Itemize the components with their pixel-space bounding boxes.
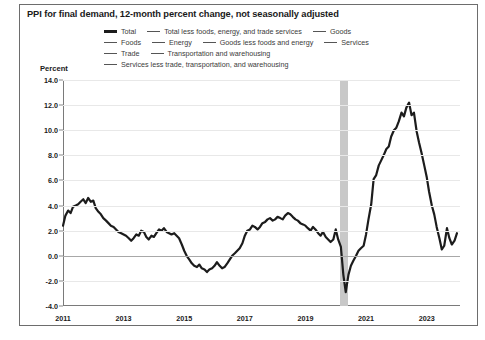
y-axis-tick-mark [59,306,63,307]
y-gridline [63,80,460,81]
x-axis-tick-label: 2017 [237,314,253,323]
y-axis-label: Percent [40,64,68,73]
x-axis-tick-label: 2021 [358,314,374,323]
chart-figure: PPI for final demand, 12-month percent c… [0,0,485,340]
y-axis-tick-mark [59,205,63,206]
legend-row: FoodsEnergyGoods less foods and energySe… [104,37,474,48]
legend-swatch-icon [147,31,160,32]
legend-item-label: Foods [121,38,141,47]
page-title: PPI for final demand, 12-month percent c… [27,9,339,19]
y-gridline [63,105,460,106]
legend-item-label: Total less foods, energy, and trade serv… [164,27,302,36]
y-gridline [63,281,460,282]
y-gridline [63,180,460,181]
y-axis-tick-label: 8.0 [48,151,58,160]
legend-item-label: Goods [330,27,351,36]
legend-item-label: Goods less foods and energy [220,38,314,47]
x-axis-tick-label: 2013 [116,314,132,323]
x-axis-tick-label: 2011 [55,314,71,323]
legend-item-label: Trade [121,49,140,58]
legend-item-label: Transportation and warehousing [168,49,271,58]
legend-swatch-icon [104,53,117,54]
legend-swatch-icon [104,64,117,65]
y-axis-tick-label: -4.0 [46,302,58,311]
y-axis-tick-label: 14.0 [44,76,58,85]
y-axis-tick-label: 0.0 [48,251,58,260]
y-axis-tick-mark [59,130,63,131]
x-axis-tick-label: 2023 [419,314,435,323]
legend-swatch-icon [104,42,117,43]
y-axis-tick-label: 2.0 [48,226,58,235]
x-axis-tick-label: 2015 [176,314,192,323]
y-axis-tick-mark [59,255,63,256]
legend-item[interactable]: Trade [104,49,140,58]
legend-swatch-icon [324,42,337,43]
y-gridline [63,231,460,232]
legend-item[interactable]: Foods [104,38,141,47]
y-axis-tick-label: 4.0 [48,201,58,210]
legend-item-label: Services less trade, transportation, and… [121,60,288,69]
y-axis-tick-label: 6.0 [48,176,58,185]
y-axis-tick-label: 12.0 [44,101,58,110]
series-total-line [63,80,460,306]
legend-swatch-icon [151,53,164,54]
y-axis-tick-mark [59,155,63,156]
legend-item-label: Energy [169,38,192,47]
legend-item[interactable]: Total [104,27,136,36]
legend-row: TradeTransportation and warehousing [104,48,474,59]
y-axis-tick-label: 10.0 [44,126,58,135]
legend-swatch-icon [104,30,117,33]
legend-item[interactable]: Total less foods, energy, and trade serv… [147,27,302,36]
chart-legend: TotalTotal less foods, energy, and trade… [104,26,474,70]
legend-row: Services less trade, transportation, and… [104,59,474,70]
y-gridline [63,256,460,257]
legend-item[interactable]: Transportation and warehousing [151,49,271,58]
y-axis-tick-mark [59,180,63,181]
legend-swatch-icon [203,42,216,43]
legend-item-label: Services [341,38,369,47]
legend-item[interactable]: Goods [313,27,351,36]
legend-row: TotalTotal less foods, energy, and trade… [104,26,474,37]
y-axis-tick-mark [59,80,63,81]
legend-item[interactable]: Services [324,38,369,47]
y-axis-tick-mark [59,105,63,106]
y-gridline [63,206,460,207]
legend-swatch-icon [313,31,326,32]
x-axis-tick-label: 2019 [297,314,313,323]
y-axis-tick-mark [59,280,63,281]
legend-item[interactable]: Energy [152,38,192,47]
y-gridline [63,130,460,131]
y-axis-tick-label: -2.0 [46,276,58,285]
plot-area: 14.012.010.08.06.04.02.00.0-2.0-4.020112… [63,80,460,306]
legend-item-label: Total [121,27,136,36]
y-gridline [63,155,460,156]
legend-item[interactable]: Services less trade, transportation, and… [104,60,288,69]
y-axis-tick-mark [59,230,63,231]
legend-swatch-icon [152,42,165,43]
legend-item[interactable]: Goods less foods and energy [203,38,314,47]
